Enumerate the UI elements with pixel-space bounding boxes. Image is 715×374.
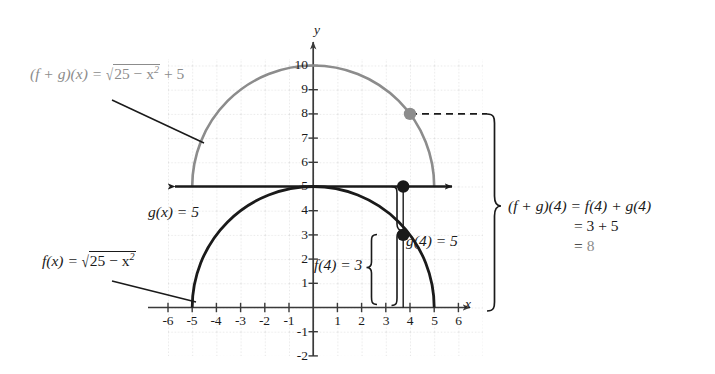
- f-function-label: f(x) = √25 − x2: [42, 251, 136, 270]
- g-at-4-label: g(4) = 5: [406, 232, 458, 249]
- radical-sign-sum: √: [106, 66, 113, 84]
- point-sum-at-4: [404, 108, 416, 120]
- sum-function-label: (f + g)(x) = √25 − x2 + 5: [30, 64, 184, 83]
- sum-radicand: 25 − x: [114, 65, 154, 82]
- y-tick-8: 8: [288, 105, 308, 121]
- y-tick-6: 6: [288, 154, 308, 170]
- x-tick-2: 2: [350, 313, 374, 329]
- f-radicand-exponent: 2: [130, 251, 135, 262]
- function-sum-figure: 10 9 8 7 6 5 4 3 2 1 -1 -2 -6 -5 -4 -3 -…: [0, 0, 715, 374]
- x-tick-5: 5: [423, 313, 447, 329]
- computation-line-3: = 8: [574, 236, 651, 256]
- g-function-label: g(x) = 5: [148, 203, 199, 220]
- y-tick-3: 3: [288, 227, 308, 243]
- f-radicand: 25 − x: [90, 252, 130, 269]
- y-tick-7: 7: [288, 130, 308, 146]
- y-axis-label: y: [314, 22, 320, 38]
- y-tick-2: 2: [288, 251, 308, 267]
- x-tick-neg5: -5: [180, 313, 204, 329]
- x-tick-1: 1: [326, 313, 350, 329]
- f-at-4-label: f(4) = 3: [314, 256, 362, 273]
- y-tick-5: 5: [288, 178, 308, 194]
- y-tick-10: 10: [288, 57, 308, 73]
- radical-sign-f: √: [82, 253, 89, 271]
- y-tick-neg2: -2: [285, 348, 308, 364]
- sum-function-label-suffix: + 5: [160, 65, 184, 82]
- x-tick-neg2: -2: [253, 313, 277, 329]
- x-axis-label: x: [465, 296, 471, 312]
- computation-line-2: = 3 + 5: [574, 216, 651, 236]
- computation-block: (f + g)(4) = f(4) + g(4) = 3 + 5 = 8: [508, 196, 651, 255]
- computation-result-value: 8: [587, 237, 595, 254]
- y-tick-1: 1: [288, 275, 308, 291]
- y-tick-9: 9: [288, 81, 308, 97]
- computation-line-3-prefix: =: [574, 237, 587, 254]
- f-function-label-prefix: f(x) =: [42, 252, 82, 269]
- x-tick-6: 6: [447, 313, 471, 329]
- x-tick-neg4: -4: [204, 313, 228, 329]
- x-tick-3: 3: [374, 313, 398, 329]
- sum-radicand-exponent: 2: [154, 64, 159, 75]
- brace-sum-at-4: [487, 114, 501, 311]
- point-g-at-4: [397, 180, 409, 192]
- y-tick-4: 4: [288, 202, 308, 218]
- computation-line-1: (f + g)(4) = f(4) + g(4): [508, 196, 651, 216]
- sum-function-label-prefix: (f + g)(x) =: [30, 65, 106, 82]
- x-tick-neg1: -1: [277, 313, 301, 329]
- x-tick-neg6: -6: [156, 313, 180, 329]
- x-tick-neg3: -3: [229, 313, 253, 329]
- x-tick-4: 4: [398, 313, 422, 329]
- gridlines: [168, 59, 483, 356]
